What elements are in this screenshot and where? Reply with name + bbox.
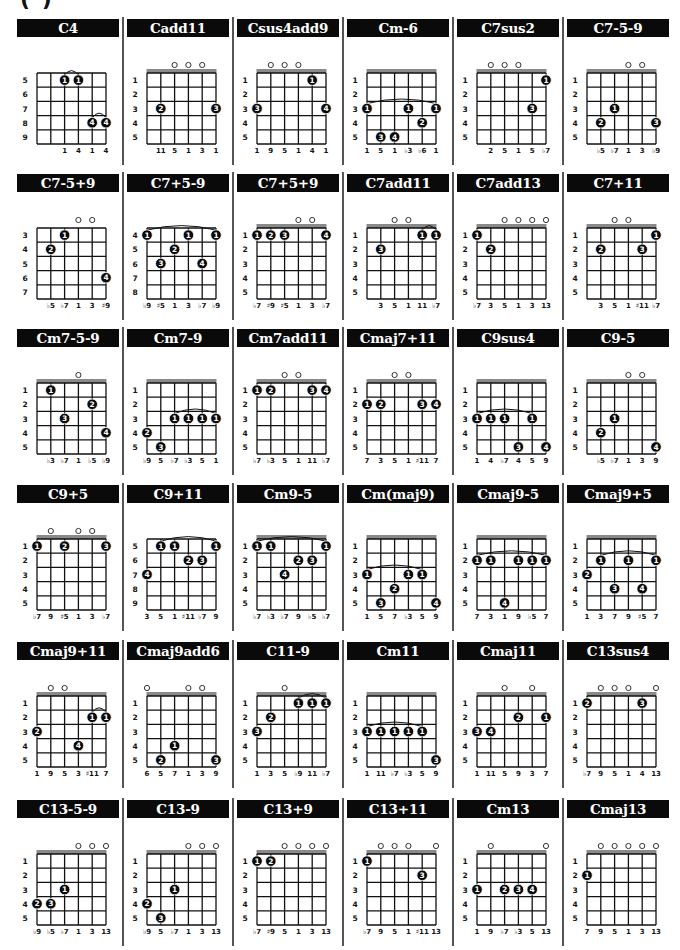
finger-dot: 2 [582,698,593,709]
finger-dot: 3 [252,103,263,114]
interval-label: 9 [214,613,219,621]
finger-number: 1 [502,414,507,423]
fret-number: 3 [352,886,357,895]
finger-number: 3 [474,727,479,736]
finger-number: 3 [48,899,53,908]
interval-label: 3 [598,613,603,621]
fret-number: 5 [242,914,247,923]
interval-label: 1 [475,770,480,778]
finger-dot: 4 [101,272,112,283]
interval-label: 1 [406,457,411,465]
fret-number: 3 [132,105,137,114]
fret-number: 9 [22,133,27,142]
chord-card: Cmaj9-5123451111147319♭57 [457,485,559,635]
fret-number: 5 [462,599,467,608]
interval-label: ♭5 [47,928,55,936]
fret-number: 5 [132,756,137,765]
chord-card: Cadd111234523115131 [127,19,229,169]
finger-number: 2 [268,231,273,240]
fret-number: 3 [352,728,357,737]
finger-dot: 1 [651,230,662,241]
interval-label: 5 [378,613,383,621]
fret-number: 5 [572,599,577,608]
chord-diagram: 12345123351♯11♭7 [567,174,669,324]
chord-card: Cm9-512345111234♭7♭3♭79♭5♭7 [237,485,339,635]
interval-label: 13 [541,302,551,310]
chord-card: C9-512345124♭5♭7139 [567,329,669,479]
interval-label: ♭7 [473,302,481,310]
open-string-icon [640,372,645,377]
fret-number: 2 [22,400,27,409]
interval-label: 1 [475,928,480,936]
finger-number: 2 [34,899,39,908]
interval-label: 4 [640,770,645,778]
fret-number: 1 [572,857,577,866]
fret-number: 4 [462,274,467,283]
interval-label: 11 [376,770,386,778]
interval-label: ♭9 [33,928,41,936]
interval-label: ♯9 [267,302,275,310]
finger-dot: 1 [513,555,524,566]
finger-dot: 3 [651,117,662,128]
interval-label: 4 [76,147,81,155]
fret-number: 1 [572,76,577,85]
interval-label: 1 [62,147,67,155]
interval-label: 5 [392,928,397,936]
finger-number: 1 [213,542,218,551]
chord-diagram: 123451112341379♯57 [567,485,669,635]
fret-number: 8 [132,288,137,297]
interval-label: 9 [516,770,521,778]
fret-number: 1 [572,231,577,240]
fret-number: 4 [352,742,357,751]
finger-number: 1 [186,231,191,240]
chord-card: Csus4add912345134195141 [237,19,339,169]
fret-number: 1 [352,231,357,240]
finger-dot: 3 [279,230,290,241]
fretboard-grid [587,228,656,299]
fret-number: 5 [132,443,137,452]
column-divider [232,17,234,165]
finger-number: 1 [474,231,479,240]
finger-dot: 3 [513,884,524,895]
interval-label: 3 [186,302,191,310]
chord-diagram: 12345123♭79♯513♭7 [17,485,119,635]
interval-label: ♯9 [267,928,275,936]
finger-number: 1 [433,104,438,113]
chord-diagram: 12345123♭5♭713♭9 [567,19,669,169]
fret-number: 5 [462,288,467,297]
chord-diagram: 1234513♭7951♯1113 [347,800,449,950]
chord-card: C7+5+9123451234♭7♯9♯513♭7 [237,174,339,324]
finger-dot: 4 [431,399,442,410]
interval-label: 3 [90,613,95,621]
finger-number: 4 [103,273,108,282]
finger-number: 2 [48,245,53,254]
chord-diagram: 45678111234♭9♯513♭7♭9 [127,174,229,324]
chord-card: C13sus41234523♭7951413 [567,642,669,792]
fret-number: 1 [22,699,27,708]
fret-number: 4 [572,274,577,283]
interval-label: ♭9 [652,147,660,155]
interval-label: 5 [420,613,425,621]
fretboard-grid [367,854,436,925]
finger-dot: 1 [321,698,332,709]
finger-dot: 4 [651,442,662,453]
fret-number: 5 [242,599,247,608]
finger-number: 1 [34,542,39,551]
finger-number: 4 [653,443,658,452]
fret-number: 5 [572,443,577,452]
interval-label: 3 [640,457,645,465]
open-string-icon [488,62,493,67]
interval-label: 3 [378,457,383,465]
fret-number: 3 [462,886,467,895]
fret-number: 3 [572,728,577,737]
interval-label: 4 [516,457,521,465]
finger-number: 2 [516,713,521,722]
interval-label: 3 [268,770,273,778]
fret-number: 5 [462,756,467,765]
fret-number: 5 [572,133,577,142]
interval-label: ♯5 [638,613,646,621]
interval-label: 11 [156,147,166,155]
finger-number: 1 [543,76,548,85]
interval-label: 4 [310,147,315,155]
open-string-icon [406,372,411,377]
